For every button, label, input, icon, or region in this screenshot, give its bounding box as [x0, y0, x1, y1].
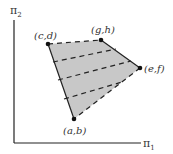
vertex-label-gh: (g,h): [91, 24, 115, 35]
x-axis-label: π1: [143, 137, 155, 152]
vertex-cd: [46, 42, 51, 47]
vertex-label-ef: (e,f): [144, 63, 165, 74]
vertex-ab: [72, 117, 77, 122]
vertex-ef: [138, 66, 143, 71]
diagram-canvas: (a,b) (c,d) (g,h) (e,f) π2 π1: [0, 0, 173, 154]
y-axis-label: π2: [10, 4, 22, 19]
vertex-label-ab: (a,b): [63, 125, 86, 136]
vertex-gh: [99, 38, 104, 43]
vertex-label-cd: (c,d): [34, 30, 57, 41]
